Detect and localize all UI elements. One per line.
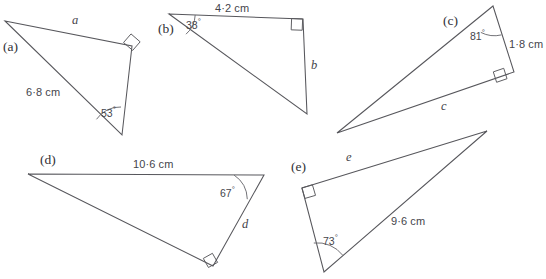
figure-b-right-angle-marker: [291, 19, 302, 31]
degree-symbol-d: °: [232, 185, 235, 194]
degree-symbol-b: °: [198, 17, 201, 26]
figure-e-right-angle-marker: [302, 185, 316, 199]
degree-symbol-e: °: [335, 233, 338, 242]
figure-e-outline: [302, 131, 487, 272]
length-label-c: 1·8 cm: [509, 39, 543, 50]
angle-value-e: 73: [323, 235, 335, 247]
part-label-d: (d): [40, 153, 56, 167]
angle-value-c: 81: [470, 30, 482, 42]
angle-label-e: 73°: [323, 234, 338, 246]
length-label-b: 4·2 cm: [215, 3, 249, 14]
side-label-c: c: [441, 100, 447, 113]
figure-c: [337, 6, 514, 133]
angle-value-d: 67: [220, 187, 232, 199]
side-label-e: e: [346, 151, 352, 164]
part-label-a: (a): [3, 40, 18, 54]
side-label-b: b: [311, 59, 317, 72]
angle-label-a: 53°: [101, 106, 116, 118]
figure-d-angle-arc: [234, 175, 247, 199]
degree-symbol-a: °: [113, 105, 116, 114]
length-label-e: 9·6 cm: [391, 216, 425, 227]
figure-d-right-angle-marker: [203, 253, 217, 267]
length-label-d: 10·6 cm: [133, 159, 173, 170]
angle-value-a: 53: [101, 107, 113, 119]
figure-c-outline: [337, 6, 514, 133]
angle-label-b: 38°: [186, 18, 201, 30]
figure-a: [5, 21, 140, 135]
side-label-d: d: [242, 218, 248, 231]
length-label-a: 6·8 cm: [26, 87, 60, 98]
side-label-a: a: [72, 14, 78, 27]
angle-value-b: 38: [186, 19, 198, 31]
angle-label-c: 81°: [470, 29, 485, 41]
angle-label-d: 67°: [220, 186, 235, 198]
worksheet-figure-sheet: (a) a 6·8 cm 53° (b) b 4·2 cm 38° (c) c …: [0, 0, 546, 279]
part-label-b: (b): [158, 22, 174, 36]
figure-e: [302, 131, 487, 272]
triangles-svg: [0, 0, 546, 279]
part-label-e: (e): [291, 160, 306, 174]
degree-symbol-c: °: [482, 28, 485, 37]
part-label-c: (c): [443, 14, 458, 28]
